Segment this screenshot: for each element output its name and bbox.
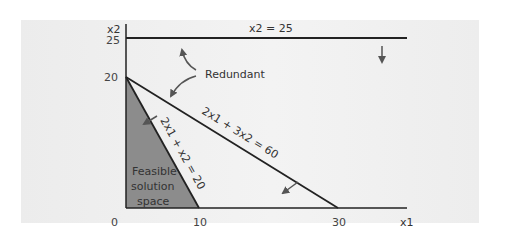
x-tick-10: 10 [193,216,207,229]
y-tick-20: 20 [104,71,118,84]
y-tick-25: 25 [106,34,120,47]
lp-graph: x2 25 20 0 10 30 x1 x2 = 25 Redundant 2x… [0,0,520,252]
feasible-label-line2: solution [131,180,175,193]
constraint-label-x2-25: x2 = 25 [249,22,293,35]
feasible-label-line1: Feasible [132,165,177,178]
x-tick-30: 30 [332,216,346,229]
redundant-label: Redundant [205,68,266,81]
x-axis-label: x1 [400,216,414,229]
feasible-label-line3: space [137,195,170,208]
x-tick-0: 0 [111,216,118,229]
curved-arrow-icon [171,76,196,96]
constraint-label-60: 2x1 + 3x2 = 60 [199,104,280,161]
curved-arrow-icon [182,50,196,70]
down-left-arrow-icon [283,182,298,193]
